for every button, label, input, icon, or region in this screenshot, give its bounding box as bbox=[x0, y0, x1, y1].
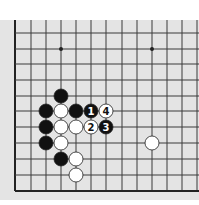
move-number-label: 1 bbox=[88, 106, 95, 117]
black-stone bbox=[39, 104, 53, 118]
white-stone-icon bbox=[69, 120, 83, 134]
black-stone-icon bbox=[54, 89, 68, 103]
black-stone-icon bbox=[39, 120, 53, 134]
white-stone-icon bbox=[69, 152, 83, 166]
white-stone bbox=[54, 104, 68, 118]
white-stone-icon bbox=[54, 136, 68, 150]
black-stone bbox=[54, 89, 68, 103]
star-point-icon bbox=[59, 47, 63, 51]
star-point-icon bbox=[150, 47, 154, 51]
white-stone: 4 bbox=[99, 104, 113, 118]
black-stone bbox=[39, 120, 53, 134]
stones: 1423 bbox=[39, 89, 159, 182]
white-stone-icon bbox=[69, 168, 83, 182]
move-number-label: 2 bbox=[88, 122, 95, 133]
white-stone bbox=[54, 136, 68, 150]
black-stone-icon bbox=[54, 152, 68, 166]
white-stone bbox=[145, 136, 159, 150]
black-stone bbox=[69, 104, 83, 118]
white-stone: 2 bbox=[84, 120, 98, 134]
go-board: 1423 bbox=[0, 0, 199, 205]
black-stone: 1 bbox=[84, 104, 98, 118]
white-stone-icon bbox=[54, 120, 68, 134]
white-stone bbox=[69, 152, 83, 166]
move-number-label: 4 bbox=[103, 106, 110, 117]
white-stone bbox=[69, 120, 83, 134]
black-stone-icon bbox=[39, 104, 53, 118]
black-stone bbox=[39, 136, 53, 150]
white-stone bbox=[54, 120, 68, 134]
black-stone bbox=[54, 152, 68, 166]
white-stone-icon bbox=[145, 136, 159, 150]
white-stone bbox=[69, 168, 83, 182]
black-stone-icon bbox=[69, 104, 83, 118]
black-stone: 3 bbox=[99, 120, 113, 134]
move-number-label: 3 bbox=[103, 122, 110, 133]
white-stone-icon bbox=[54, 104, 68, 118]
black-stone-icon bbox=[39, 136, 53, 150]
